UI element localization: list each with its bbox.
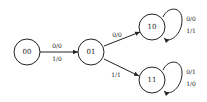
transition-01-to-10: 0/0 (104, 31, 140, 47)
state-label: 01 (87, 48, 96, 56)
edge-arrow (104, 59, 139, 76)
edge-label: 1/0 (52, 55, 62, 62)
edge-label: 0/0 (52, 42, 62, 49)
state-label: 10 (148, 23, 157, 31)
transition-10-self-loop: 0/0 1/1 (163, 9, 196, 40)
state-11: 11 (139, 67, 165, 93)
edge-label: 0/0 (186, 15, 196, 22)
state-00: 00 (14, 39, 40, 65)
edge-label: 1/1 (186, 27, 196, 34)
state-01: 01 (78, 39, 104, 65)
transition-00-to-01: 0/0 1/0 (40, 42, 78, 62)
transition-11-self-loop: 0/1 1/0 (163, 62, 196, 93)
edge-label: 0/0 (112, 31, 122, 38)
loop-arrow (163, 9, 182, 40)
transition-01-to-11: 1/1 (104, 59, 139, 78)
edge-label: 1/1 (111, 71, 121, 78)
edge-arrow (104, 32, 140, 46)
state-10: 10 (139, 14, 165, 40)
loop-arrow (163, 62, 182, 93)
state-label: 00 (23, 48, 32, 56)
state-diagram: 0/0 1/0 0/0 1/1 0/0 1/1 0/1 1/0 00 01 10… (0, 0, 207, 102)
edge-label: 1/0 (186, 80, 196, 87)
edge-label: 0/1 (186, 68, 196, 75)
state-label: 11 (148, 76, 157, 84)
